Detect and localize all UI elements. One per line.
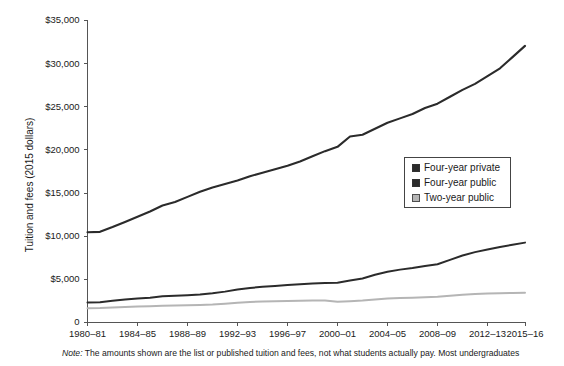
x-tick-label: 2004–05 xyxy=(369,328,406,339)
figure-note-body: The amounts shown are the list or publis… xyxy=(83,348,520,358)
x-tick-label: 2015–16 xyxy=(507,328,544,339)
y-axis-title-label: Tuition and fees (2015 dollars) xyxy=(24,118,35,253)
y-tick-label: $10,000 xyxy=(45,230,79,241)
x-tick-label: 2012–13 xyxy=(469,328,506,339)
figure-note-prefix: Note: xyxy=(62,348,83,358)
legend-swatch-1 xyxy=(412,179,420,187)
y-tick-label: $15,000 xyxy=(45,187,79,198)
x-tick-label: 2000–01 xyxy=(319,328,356,339)
series-line-four-year-public xyxy=(88,243,526,303)
legend-label-0: Four-year private xyxy=(424,162,501,173)
x-tick-label: 1992–93 xyxy=(219,328,256,339)
y-tick-label: 0 xyxy=(74,316,79,327)
x-tick-label: 2008–09 xyxy=(419,328,456,339)
x-tick-label: 1996–97 xyxy=(269,328,306,339)
figure-note-text: Note: The amounts shown are the list or … xyxy=(62,348,519,358)
x-tick-label: 1988–89 xyxy=(169,328,206,339)
y-tick-label: $35,000 xyxy=(45,14,79,25)
tuition-and-fees-line-chart: Tuition and fees (2015 dollars) 0$5,000$… xyxy=(0,0,564,366)
figure-note: Note: The amounts shown are the list or … xyxy=(62,348,519,358)
y-tick-label: $20,000 xyxy=(45,144,79,155)
y-tick-label: $25,000 xyxy=(45,101,79,112)
chart-legend: Four-year privateFour-year publicTwo-yea… xyxy=(405,158,511,208)
y-axis-title: Tuition and fees (2015 dollars) xyxy=(24,118,35,253)
x-tick-label: 1984–85 xyxy=(119,328,156,339)
series-line-two-year-public xyxy=(88,293,526,309)
legend-swatch-0 xyxy=(412,164,420,172)
x-tick-label: 1980–81 xyxy=(69,328,106,339)
y-tick-label: $30,000 xyxy=(45,58,79,69)
y-axis-ticks: 0$5,000$10,000$15,000$20,000$25,000$30,0… xyxy=(45,14,87,327)
x-axis-ticks: 1980–811984–851988–891992–931996–972000–… xyxy=(69,322,543,339)
chart-figure: Tuition and fees (2015 dollars) 0$5,000$… xyxy=(0,0,564,366)
legend-label-2: Two-year public xyxy=(424,192,494,203)
legend-label-1: Four-year public xyxy=(424,177,496,188)
y-tick-label: $5,000 xyxy=(50,273,79,284)
legend-swatch-2 xyxy=(412,194,420,202)
